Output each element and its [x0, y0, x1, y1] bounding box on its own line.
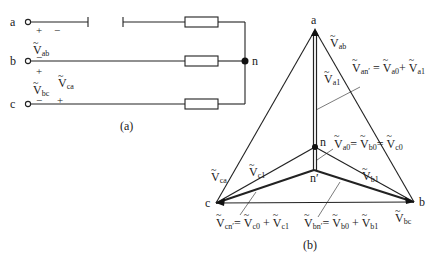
voltage-vca-label: ~Vca: [58, 77, 74, 93]
node-n-prime-label: n′: [310, 172, 319, 184]
equation-vbn-prime: Vbn′= Vb0 + Vb1: [304, 217, 378, 233]
resistor-b-icon: [185, 56, 218, 66]
resistor-a-icon: [185, 17, 218, 27]
node-n-label: n: [252, 55, 258, 67]
phasor-vab-label: ~Vab: [330, 37, 346, 53]
ab-plus-sign: +: [36, 25, 42, 36]
caption-a: (a): [120, 119, 133, 134]
node-n-dot-icon: [242, 58, 249, 65]
caption-b: (b): [303, 238, 317, 253]
ca-plus-sign: +: [57, 95, 63, 106]
bc-plus-sign: +: [36, 66, 42, 77]
phasor-vbc-label: ~Vbc: [395, 212, 411, 228]
terminal-b-icon: [25, 58, 30, 63]
node-n-label: n: [320, 136, 326, 148]
vertex-a-arrow-icon: [311, 28, 319, 36]
voltage-vbc-label: ~Vbc: [33, 84, 49, 100]
terminal-c-label: c: [10, 98, 15, 110]
phasor-vca-label: ~Vca: [211, 171, 227, 187]
node-n-dot-icon: [312, 144, 318, 150]
voltage-vab-label: ~Vab: [33, 44, 49, 60]
equation-zero-sequence: Va0= Vb0= Vc0: [334, 138, 403, 154]
phasor-vb1-label: ~Vb1: [362, 170, 379, 186]
equation-van-prime: Van′ = Va0+ Va1: [352, 62, 425, 78]
vertex-b-label: b: [419, 196, 425, 208]
terminal-a-label: a: [10, 16, 15, 28]
terminal-b-label: b: [10, 55, 16, 67]
terminal-a-icon: [25, 19, 30, 24]
ab-minus-sign: −: [54, 25, 60, 36]
equation-vcn-prime: Vcn′= Vc0 + Vc1: [216, 217, 289, 233]
phasor-vc1-label: ~Vc1: [249, 166, 265, 182]
phasor-va1-label: ~Va1: [324, 73, 340, 89]
vertex-a-label: a: [311, 14, 316, 26]
terminal-c-icon: [25, 101, 30, 106]
vertex-c-label: c: [205, 197, 210, 209]
resistor-c-icon: [185, 99, 218, 109]
